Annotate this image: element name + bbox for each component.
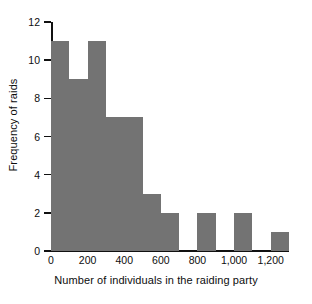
y-tick-mark — [44, 59, 51, 60]
y-tick-label: 6 — [14, 132, 40, 142]
histogram-bar — [124, 117, 142, 251]
y-tick-mark — [44, 250, 51, 251]
y-tick-mark — [44, 21, 51, 22]
y-tick-mark — [44, 174, 51, 175]
histogram-bar — [51, 41, 69, 251]
histogram-bar — [234, 213, 252, 251]
histogram-bar — [106, 117, 124, 251]
histogram-bar — [161, 213, 179, 251]
x-tick-label: 1,200 — [248, 254, 294, 266]
y-tick-label: 2 — [14, 208, 40, 218]
y-tick-label: 8 — [14, 93, 40, 103]
histogram-bar — [143, 194, 161, 251]
histogram-figure: Frequency of raids 024681012 02004006008… — [0, 0, 312, 304]
y-tick-mark — [44, 136, 51, 137]
plot-area — [51, 22, 289, 251]
y-tick-mark — [44, 212, 51, 213]
histogram-bar — [88, 41, 106, 251]
y-tick-label: 10 — [14, 55, 40, 65]
y-tick-label: 12 — [14, 17, 40, 27]
y-tick-mark — [44, 98, 51, 99]
histogram-bar — [197, 213, 215, 251]
x-axis-title: Number of individuals in the raiding par… — [0, 274, 312, 286]
histogram-bar — [69, 79, 87, 251]
y-tick-label: 4 — [14, 170, 40, 180]
histogram-bar — [271, 232, 289, 251]
